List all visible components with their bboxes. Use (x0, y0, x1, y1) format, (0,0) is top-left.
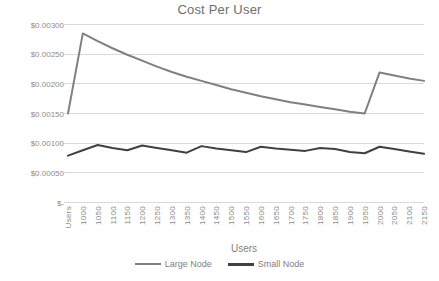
x-tick-label: 1550 (242, 206, 251, 225)
legend-label-large-node: Large Node (165, 259, 212, 269)
x-tick-label: 1650 (272, 206, 281, 225)
x-tick-label: Users (64, 206, 73, 228)
legend-swatch-large-node (135, 263, 161, 265)
x-tick-label: 1400 (198, 206, 207, 225)
x-tick-label: 1250 (153, 206, 162, 225)
x-tick-label: 1700 (287, 206, 296, 225)
x-tick-label: 2150 (420, 206, 429, 225)
chart-legend: Large Node Small Node (0, 259, 439, 269)
legend-label-small-node: Small Node (258, 259, 305, 269)
x-tick-label: 1200 (138, 206, 147, 225)
x-tick-label: 1150 (123, 206, 132, 224)
legend-swatch-small-node (228, 263, 254, 266)
x-tick-label: 1350 (183, 206, 192, 225)
x-tick-label: 1300 (168, 206, 177, 225)
legend-item-large-node[interactable]: Large Node (135, 259, 212, 269)
legend-item-small-node[interactable]: Small Node (228, 259, 305, 269)
x-tick-label: 1750 (301, 206, 310, 225)
x-tick-label: 1500 (227, 206, 236, 225)
x-tick-label: 1450 (212, 206, 221, 225)
x-tick-label: 2050 (390, 206, 399, 225)
x-tick-label: 1050 (94, 206, 103, 225)
x-axis-title: Users (64, 243, 424, 254)
x-tick-label: 2000 (376, 206, 385, 225)
x-tick-label: 1800 (316, 206, 325, 225)
x-tick-label: 1000 (79, 206, 88, 225)
x-tick-label: 1950 (361, 206, 370, 225)
x-tick-label: 1100 (109, 206, 118, 224)
x-tick-label: 1900 (346, 206, 355, 225)
x-axis-tick-labels: Users10001050110011501200125013001350140… (0, 0, 439, 281)
cost-per-user-chart: Cost Per User $0.00300$0.00250$0.00200$0… (0, 0, 439, 281)
x-tick-label: 1850 (331, 206, 340, 225)
x-tick-label: 1600 (257, 206, 266, 225)
x-tick-label: 2100 (405, 206, 414, 225)
